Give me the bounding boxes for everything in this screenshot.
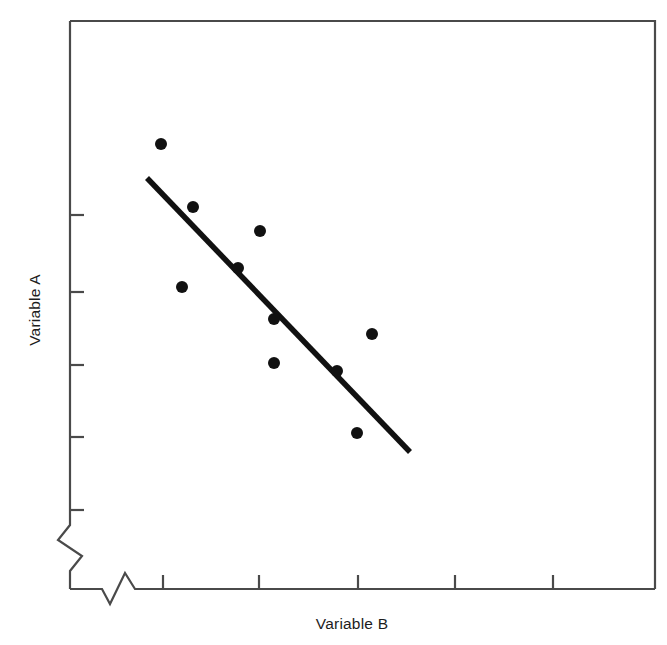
- data-point: [268, 357, 280, 369]
- data-point: [232, 262, 244, 274]
- data-point: [187, 201, 199, 213]
- x-axis-line: [70, 573, 655, 604]
- scatter-plot-figure: Variable A Variable B: [0, 0, 667, 645]
- data-point: [155, 138, 167, 150]
- trend-line: [147, 178, 410, 452]
- plot-canvas: [0, 0, 667, 645]
- data-point: [268, 313, 280, 325]
- scatter-points: [155, 138, 378, 439]
- y-axis-line: [58, 21, 82, 589]
- y-axis-ticks: [70, 215, 84, 510]
- x-axis-label: Variable B: [282, 615, 422, 633]
- data-point: [176, 281, 188, 293]
- x-axis-ticks: [163, 575, 553, 589]
- data-point: [254, 225, 266, 237]
- data-point: [331, 365, 343, 377]
- plot-frame-border: [70, 21, 655, 589]
- data-point: [366, 328, 378, 340]
- data-point: [351, 427, 363, 439]
- y-axis-label: Variable A: [26, 230, 44, 390]
